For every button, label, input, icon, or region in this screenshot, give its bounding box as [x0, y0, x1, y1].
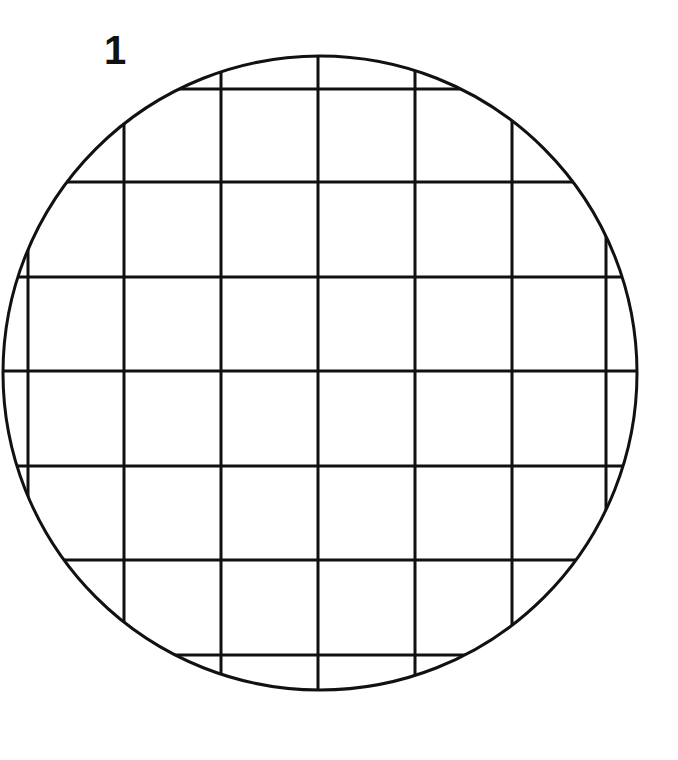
circle-grid-diagram: [0, 0, 678, 760]
circle-outline: [3, 56, 637, 690]
grid-lines: [0, 0, 678, 760]
